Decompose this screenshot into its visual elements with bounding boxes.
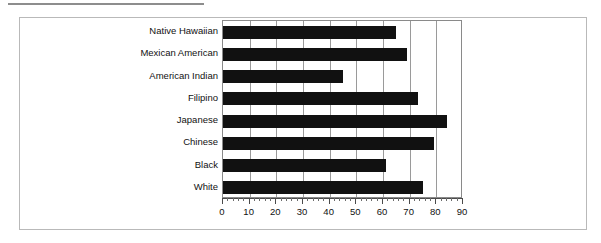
- bar-row: [223, 43, 463, 65]
- bar: [223, 137, 434, 150]
- bar: [223, 115, 447, 128]
- x-tick-major: [249, 198, 250, 204]
- x-tick-label: 0: [219, 206, 224, 217]
- x-tick-minor: [403, 198, 404, 201]
- x-tick-minor: [265, 198, 266, 201]
- x-tick-minor: [451, 198, 452, 201]
- x-tick-minor: [393, 198, 394, 201]
- x-tick-label: 60: [377, 206, 388, 217]
- x-tick-minor: [227, 198, 228, 201]
- bar-row: [223, 132, 463, 154]
- x-tick-minor: [345, 198, 346, 201]
- category-label: Black: [18, 160, 218, 170]
- x-tick-major: [302, 198, 303, 204]
- x-tick-minor: [334, 198, 335, 201]
- x-tick-label: 40: [323, 206, 334, 217]
- bar: [223, 26, 396, 39]
- x-tick-minor: [366, 198, 367, 201]
- x-tick-label: 30: [297, 206, 308, 217]
- x-tick-minor: [254, 198, 255, 201]
- x-tick-major: [355, 198, 356, 204]
- x-axis-line: [222, 198, 462, 199]
- x-tick-minor: [350, 198, 351, 201]
- bar-row: [223, 155, 463, 177]
- x-tick-major: [409, 198, 410, 204]
- category-label: American Indian: [18, 71, 218, 81]
- bar-row: [223, 88, 463, 110]
- x-tick-minor: [387, 198, 388, 201]
- x-tick-minor: [238, 198, 239, 201]
- category-label: Japanese: [18, 115, 218, 125]
- x-tick-label: 50: [350, 206, 361, 217]
- x-tick-minor: [297, 198, 298, 201]
- x-tick-minor: [270, 198, 271, 201]
- x-tick-minor: [430, 198, 431, 201]
- bar-row: [223, 177, 463, 199]
- category-label: Filipino: [18, 93, 218, 103]
- x-tick-minor: [457, 198, 458, 201]
- x-tick-minor: [323, 198, 324, 201]
- x-tick-minor: [371, 198, 372, 201]
- x-tick-minor: [233, 198, 234, 201]
- x-axis: 0102030405060708090: [222, 198, 462, 228]
- category-label: Native Hawaiian: [18, 26, 218, 36]
- x-tick-minor: [414, 198, 415, 201]
- category-label: Chinese: [18, 137, 218, 147]
- x-tick-minor: [307, 198, 308, 201]
- category-label: White: [18, 182, 218, 192]
- x-tick-major: [222, 198, 223, 204]
- x-tick-label: 20: [270, 206, 281, 217]
- x-tick-minor: [446, 198, 447, 201]
- bar: [223, 48, 407, 61]
- x-tick-minor: [441, 198, 442, 201]
- bar: [223, 92, 418, 105]
- x-tick-minor: [425, 198, 426, 201]
- x-tick-minor: [361, 198, 362, 201]
- bar: [223, 159, 386, 172]
- category-label: Mexican American: [18, 48, 218, 58]
- bar-row: [223, 66, 463, 88]
- category-axis-labels: Native HawaiianMexican AmericanAmerican …: [14, 20, 218, 198]
- x-tick-minor: [243, 198, 244, 201]
- bar: [223, 181, 423, 194]
- x-tick-major: [435, 198, 436, 204]
- x-tick-label: 80: [430, 206, 441, 217]
- x-tick-major: [329, 198, 330, 204]
- x-tick-minor: [419, 198, 420, 201]
- x-tick-minor: [313, 198, 314, 201]
- x-tick-minor: [291, 198, 292, 201]
- bar-row: [223, 110, 463, 132]
- x-tick-label: 70: [403, 206, 414, 217]
- bar-chart: Native HawaiianMexican AmericanAmerican …: [0, 0, 601, 243]
- x-tick-major: [275, 198, 276, 204]
- x-tick-label: 90: [457, 206, 468, 217]
- x-tick-minor: [377, 198, 378, 201]
- x-tick-minor: [318, 198, 319, 201]
- x-tick-major: [462, 198, 463, 204]
- bar: [223, 70, 343, 83]
- x-tick-minor: [339, 198, 340, 201]
- x-tick-major: [382, 198, 383, 204]
- x-tick-minor: [281, 198, 282, 201]
- x-tick-label: 10: [243, 206, 254, 217]
- bar-row: [223, 21, 463, 43]
- x-tick-minor: [286, 198, 287, 201]
- plot-area: [222, 20, 462, 198]
- x-tick-minor: [259, 198, 260, 201]
- x-tick-minor: [398, 198, 399, 201]
